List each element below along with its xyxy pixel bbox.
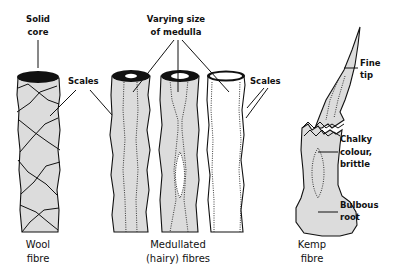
- scales-label-right: Scales: [250, 76, 281, 86]
- chalky-label-line2: colour,: [340, 147, 372, 157]
- fine-tip-label-line2: tip: [360, 70, 373, 80]
- bulbous-label-line2: root: [340, 212, 360, 222]
- medullated-fibre-3: [207, 71, 245, 233]
- wool-caption-line2: fibre: [27, 253, 50, 264]
- kemp-caption-line2: fibre: [301, 253, 324, 264]
- chalky-label-line1: Chalky: [340, 134, 373, 144]
- scales-leader-medullated: [90, 90, 112, 115]
- scales-label-left: Scales: [68, 76, 99, 86]
- medullated-caption-line1: Medullated: [150, 239, 206, 250]
- scales-leader-right-2: [246, 88, 268, 118]
- wool-caption-line1: Wool: [26, 239, 50, 250]
- solid-core-label-line1: Solid: [26, 14, 50, 24]
- medulla-label-line2: of medulla: [151, 27, 202, 37]
- medullated-caption-line2: (hairy) fibres: [146, 253, 210, 264]
- fibre-types-diagram: Solid core Scales Varying size of medull…: [0, 0, 398, 278]
- solid-core-top: [17, 71, 59, 83]
- fine-tip-label-line1: Fine: [360, 58, 381, 68]
- medullated-fibre-1: [110, 70, 150, 232]
- solid-core-label-line2: core: [28, 27, 49, 37]
- wool-fibre: [17, 71, 60, 232]
- kemp-caption-line1: Kemp: [298, 239, 326, 250]
- medullated-fibre-2: [159, 70, 199, 232]
- medulla-label-line1: Varying size: [147, 14, 206, 24]
- chalky-label-line3: brittle: [340, 159, 370, 169]
- bulbous-label-line1: Bulbous: [340, 200, 378, 210]
